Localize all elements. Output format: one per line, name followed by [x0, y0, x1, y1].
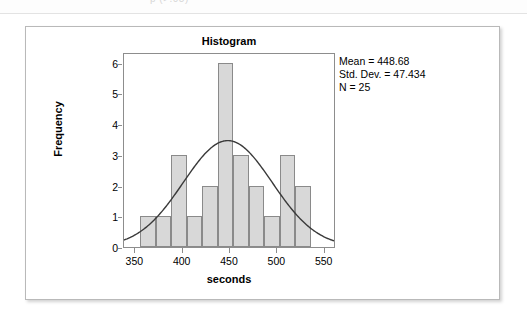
plot-inner-area	[124, 54, 334, 247]
stat-std-dev: Std. Dev. = 47.434	[339, 68, 426, 81]
y-axis-tick-label: 6	[96, 59, 118, 69]
y-axis-tick-mark	[118, 94, 122, 95]
histogram-bar	[264, 216, 280, 247]
x-axis-tick-mark	[229, 248, 230, 253]
x-axis-tick-label: 400	[162, 255, 202, 267]
y-axis-tick-labels: 0123456	[94, 53, 118, 248]
statistics-annotation: Mean = 448.68 Std. Dev. = 47.434 N = 25	[339, 55, 426, 94]
histogram-chart: Histogram Frequency 0123456 350400450500…	[26, 27, 501, 301]
y-axis-tick-mark	[118, 217, 122, 218]
y-axis-tick-label: 1	[96, 212, 118, 222]
y-axis-tick-mark	[118, 64, 122, 65]
stat-mean: Mean = 448.68	[339, 55, 426, 68]
histogram-bar	[202, 186, 218, 247]
clipped-caption-text: p (>.05)	[150, 0, 189, 4]
stat-n: N = 25	[339, 81, 426, 94]
histogram-bar	[280, 155, 296, 247]
y-axis-tick-mark	[118, 125, 122, 126]
histogram-bar	[249, 186, 265, 247]
y-axis-tick-mark	[118, 156, 122, 157]
x-axis-tick-label: 450	[209, 255, 249, 267]
x-axis-tick-label: 500	[256, 255, 296, 267]
x-axis-tick-mark	[182, 248, 183, 253]
y-axis-tick-label: 4	[96, 120, 118, 130]
histogram-bar	[218, 63, 234, 247]
figure-card: Histogram Frequency 0123456 350400450500…	[25, 26, 500, 300]
chart-title: Histogram	[123, 35, 335, 47]
histogram-bar	[233, 155, 249, 247]
y-axis-tick-label: 0	[96, 243, 118, 253]
y-axis-tick-mark	[118, 248, 122, 249]
y-axis-tick-label: 3	[96, 151, 118, 161]
y-axis-title: Frequency	[52, 69, 64, 189]
y-axis-tick-label: 2	[96, 182, 118, 192]
histogram-bar	[156, 216, 172, 247]
histogram-bar	[171, 155, 187, 247]
y-axis-tick-mark	[118, 187, 122, 188]
x-axis-tick-mark	[276, 248, 277, 253]
x-axis-tick-label: 350	[114, 255, 154, 267]
x-axis-tick-label: 550	[304, 255, 344, 267]
histogram-bar	[295, 186, 311, 247]
plot-frame	[123, 53, 335, 248]
x-axis-title: seconds	[123, 273, 335, 285]
histogram-bar	[140, 216, 156, 247]
y-axis-tick-label: 5	[96, 89, 118, 99]
page-top-strip: p (>.05)	[0, 0, 527, 14]
histogram-bar	[187, 216, 203, 247]
top-divider-rule	[0, 13, 527, 14]
x-axis-tick-mark	[324, 248, 325, 253]
x-axis-tick-mark	[134, 248, 135, 253]
